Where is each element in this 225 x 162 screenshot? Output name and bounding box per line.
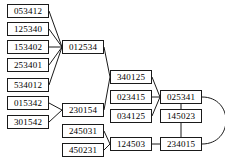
graph-edge [202, 97, 225, 144]
graph-edge [49, 29, 62, 47]
graph-node[interactable]: 245031 [62, 124, 104, 138]
graph-node[interactable]: 023415 [110, 90, 152, 104]
graph-node[interactable]: 125340 [7, 22, 49, 36]
graph-edge [49, 11, 62, 47]
graph-node[interactable]: 034125 [110, 109, 152, 123]
graph-node[interactable]: 145023 [160, 109, 202, 123]
graph-node[interactable]: 015342 [7, 96, 49, 110]
graph-node[interactable]: 450231 [62, 143, 104, 157]
graph-canvas: 0534121253401534022534015340120153423015… [0, 0, 225, 162]
graph-node[interactable]: 053412 [7, 4, 49, 18]
graph-node[interactable]: 234015 [160, 137, 202, 151]
graph-node[interactable]: 534012 [7, 78, 49, 92]
graph-node[interactable]: 301542 [7, 115, 49, 129]
graph-edge [49, 47, 62, 65]
graph-node[interactable]: 153402 [7, 40, 49, 54]
graph-edge [49, 110, 62, 122]
graph-edge [49, 47, 62, 85]
graph-edge [49, 103, 62, 110]
graph-node[interactable]: 230154 [62, 103, 104, 117]
graph-node[interactable]: 253401 [7, 58, 49, 72]
graph-node[interactable]: 340125 [110, 70, 152, 84]
graph-edge [152, 77, 160, 97]
graph-node[interactable]: 025341 [160, 90, 202, 104]
graph-node[interactable]: 012534 [62, 40, 104, 54]
graph-edge [152, 97, 160, 116]
graph-node[interactable]: 124503 [110, 137, 152, 151]
